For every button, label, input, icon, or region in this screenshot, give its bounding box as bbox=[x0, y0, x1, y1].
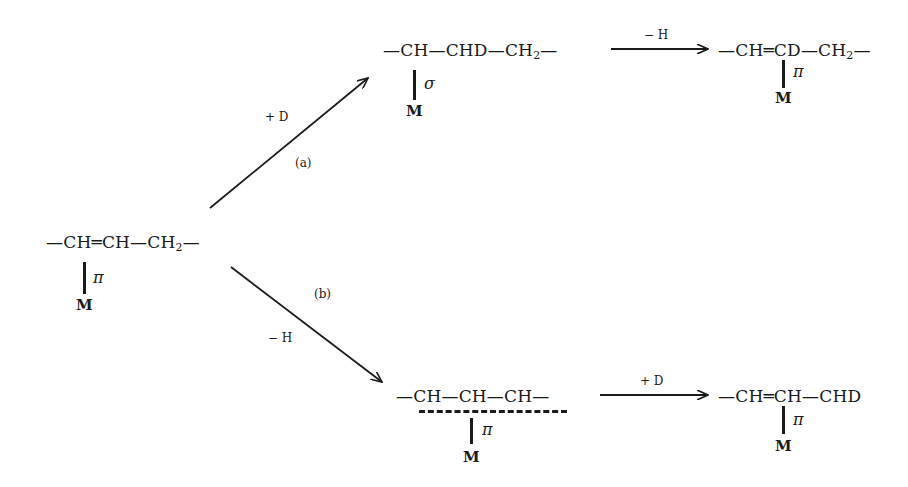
formula-part: — bbox=[183, 232, 200, 252]
formula-part: CH—CH bbox=[102, 232, 176, 252]
subscript: 2 bbox=[176, 241, 183, 254]
path-b-product-bond-label: π bbox=[793, 410, 804, 429]
path-a-intermediate-bond-label: σ bbox=[424, 74, 435, 93]
path-a-reagent: + D bbox=[265, 110, 289, 124]
path-b-intermediate-formula: —CH—CH—CH— bbox=[396, 386, 550, 406]
subscript: 2 bbox=[846, 49, 853, 62]
path-a-product-metal: M bbox=[775, 89, 792, 107]
formula-part: —CH═CH—CHD bbox=[718, 386, 861, 406]
double-bond: ═ bbox=[91, 232, 101, 252]
path-b-product-formula: —CH═CH—CHD bbox=[718, 386, 861, 406]
arrow-path-b bbox=[231, 267, 382, 382]
path-b-intermediate-bond-label: π bbox=[482, 420, 493, 439]
formula-part: —CH bbox=[46, 232, 91, 252]
start-metal-bond bbox=[83, 262, 86, 294]
path-b-intermediate-metal: M bbox=[463, 448, 480, 466]
formula-part: —CH—CH—CH— bbox=[396, 386, 550, 406]
path-a-step2-reagent: − H bbox=[644, 28, 668, 42]
start-formula: —CH═CH—CH2— bbox=[46, 232, 200, 254]
path-a-intermediate-bond bbox=[413, 70, 416, 100]
path-a-product-formula: —CH═CD—CH2— bbox=[718, 40, 871, 62]
formula-part: —CH—CHD—CH bbox=[383, 40, 533, 60]
path-b-reagent: − H bbox=[268, 331, 292, 345]
path-a-intermediate-formula: —CH—CHD—CH2— bbox=[383, 40, 558, 62]
formula-part: —CH═CD—CH bbox=[718, 40, 846, 60]
path-a-intermediate-metal: M bbox=[406, 102, 423, 120]
path-b-product-metal: M bbox=[775, 437, 792, 455]
path-a-label: (a) bbox=[295, 156, 312, 170]
path-b-intermediate-bond bbox=[470, 418, 473, 444]
delocalized-bond-dashes bbox=[419, 410, 567, 413]
path-b-label: (b) bbox=[314, 287, 331, 301]
path-a-product-bond-label: π bbox=[793, 62, 804, 81]
start-metal: M bbox=[76, 296, 93, 314]
formula-part: — bbox=[854, 40, 871, 60]
path-b-product-bond bbox=[782, 406, 785, 434]
arrow-path-a bbox=[210, 78, 368, 208]
path-b-step2-reagent: + D bbox=[640, 374, 664, 388]
path-a-product-bond bbox=[782, 60, 785, 88]
start-bond-label: π bbox=[93, 268, 104, 287]
formula-part: — bbox=[540, 40, 557, 60]
